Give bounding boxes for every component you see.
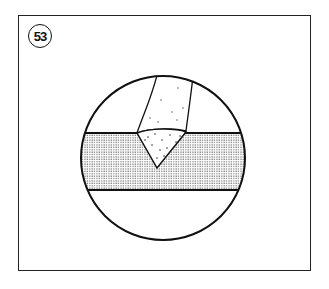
weld-detail-illustration [0,0,329,289]
weld-electrode [137,62,194,133]
